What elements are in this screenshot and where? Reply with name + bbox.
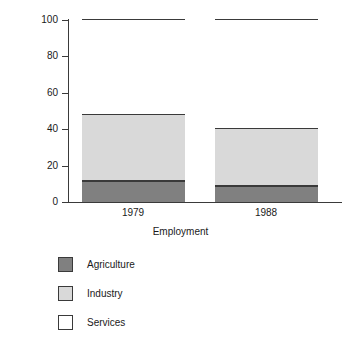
legend-label-services: Services — [87, 317, 125, 328]
legend-item-services: Services — [58, 308, 135, 337]
x-axis-line — [68, 202, 342, 203]
y-tick-mark — [62, 56, 69, 57]
plot-area — [82, 20, 318, 202]
legend-swatch-industry — [58, 286, 73, 301]
legend-item-industry: Industry — [58, 279, 135, 308]
x-tick-label-1988: 1988 — [206, 207, 326, 218]
bar-1979 — [82, 20, 185, 202]
y-tick-mark — [62, 93, 69, 94]
bar-1979-segment-agriculture — [82, 181, 185, 202]
y-tick-mark — [62, 20, 69, 21]
legend-label-agriculture: Agriculture — [87, 259, 135, 270]
legend-swatch-agriculture — [58, 257, 73, 272]
legend-swatch-services — [58, 315, 73, 330]
bar-1988-segment-services — [215, 19, 318, 128]
bar-1979-segment-industry — [82, 114, 185, 181]
x-tick-label-1979: 1979 — [73, 207, 193, 218]
legend-item-agriculture: Agriculture — [58, 250, 135, 279]
y-tick-mark — [62, 166, 69, 167]
chart-legend: Agriculture Industry Services — [58, 250, 135, 337]
bar-1988-segment-industry — [215, 128, 318, 186]
y-axis-line — [68, 19, 69, 203]
x-axis-title: Employment — [0, 226, 361, 237]
bar-1988 — [215, 20, 318, 202]
legend-label-industry: Industry — [87, 288, 123, 299]
y-tick-mark — [62, 129, 69, 130]
stacked-bar-chart: Percentage 0 20 40 60 80 100 — [0, 0, 361, 338]
y-tick-mark — [62, 202, 69, 203]
bar-1988-segment-agriculture — [215, 186, 318, 202]
